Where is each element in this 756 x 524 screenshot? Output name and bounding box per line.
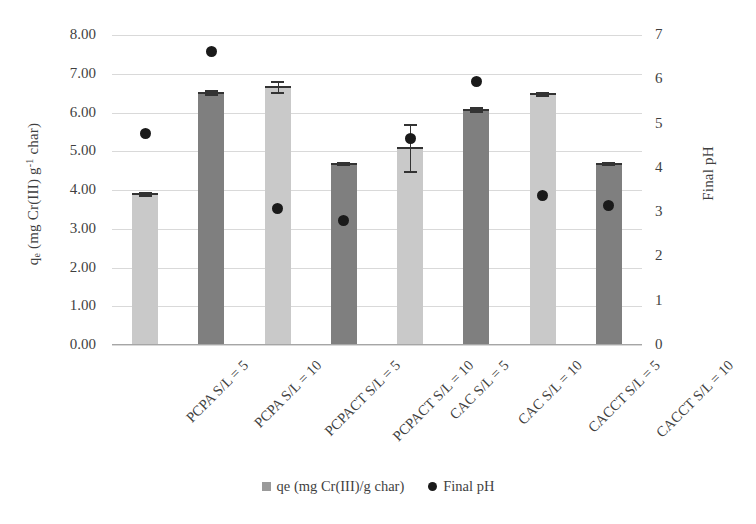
plot-area (112, 35, 642, 345)
x-axis-label-3: PCPACT S/L = 10 (389, 357, 477, 445)
gridline (112, 190, 642, 191)
gridline (112, 345, 642, 346)
y-axis-right-tick-label: 3 (655, 204, 695, 219)
y-axis-left-title-mid: (mg Cr(III) g (25, 167, 41, 253)
error-bar-cap-upper (205, 90, 218, 92)
error-bar-cap-lower (337, 164, 350, 166)
gridline (112, 229, 642, 230)
legend-item-1[interactable]: Final pH (428, 478, 494, 495)
bar-4 (397, 147, 423, 345)
y-axis-left-tick-label: 1.00 (36, 298, 96, 313)
y-axis-left-title-subscript: e (31, 253, 42, 258)
error-bar-cap-upper (470, 107, 483, 109)
error-bar-cap-upper (536, 92, 549, 94)
y-axis-left-tick-label: 3.00 (36, 221, 96, 236)
gridline (112, 268, 642, 269)
chart-legend: qe (mg Cr(III)/g char)Final pH (0, 478, 756, 495)
gridline (112, 74, 642, 75)
y-axis-right-tick-label: 6 (655, 71, 695, 86)
ph-marker-1 (206, 46, 217, 57)
legend-item-label: Final pH (443, 478, 494, 495)
error-bar-cap-lower (404, 171, 417, 173)
dot-marker-icon (428, 482, 437, 491)
chart-figure: qe (mg Cr(III) g-1 char) Final pH 0.001.… (0, 0, 756, 524)
x-axis-label-2: PCPACT S/L = 5 (321, 357, 404, 440)
x-axis-label-4: CAC S/L = 5 (447, 357, 513, 423)
bar-6 (530, 93, 556, 345)
y-axis-left-tick-label: 6.00 (36, 105, 96, 120)
error-bar-cap-lower (271, 92, 284, 94)
legend-item-0[interactable]: qe (mg Cr(III)/g char) (262, 478, 405, 495)
bar-3 (331, 163, 357, 345)
error-bar-cap-upper (271, 81, 284, 83)
bar-5 (463, 109, 489, 345)
y-axis-left-tick-label: 4.00 (36, 182, 96, 197)
y-axis-left-tick-label: 5.00 (36, 143, 96, 158)
gridline (112, 306, 642, 307)
bar-1 (198, 92, 224, 345)
ph-marker-3 (338, 215, 349, 226)
x-axis-label-6: CACCT S/L = 5 (584, 357, 663, 436)
error-bar-cap-lower (602, 164, 615, 166)
x-axis-label-7: CACCT S/L = 10 (653, 357, 737, 441)
gridline (112, 35, 642, 36)
error-bar-cap-upper (404, 124, 417, 126)
ph-marker-5 (471, 76, 482, 87)
gridline (112, 113, 642, 114)
y-axis-left-tick-label: 7.00 (36, 66, 96, 81)
bar-2 (265, 86, 291, 345)
error-bar-cap-lower (205, 94, 218, 96)
error-bar-cap-lower (470, 111, 483, 113)
x-axis-label-0: PCPA S/L = 5 (183, 357, 252, 426)
x-axis-label-1: PCPA S/L = 10 (251, 357, 325, 431)
bar-0 (132, 193, 158, 345)
error-bar-cap-lower (139, 195, 152, 197)
ph-marker-6 (537, 190, 548, 201)
y-axis-right-tick-label: 5 (655, 116, 695, 131)
ph-marker-4 (405, 133, 416, 144)
ph-marker-0 (140, 128, 151, 139)
y-axis-right-title: Final pH (700, 114, 717, 234)
y-axis-right-tick-label: 1 (655, 293, 695, 308)
bar-7 (596, 163, 622, 345)
square-marker-icon (262, 482, 271, 491)
y-axis-right-tick-label: 4 (655, 160, 695, 175)
y-axis-left-title-superscript: -1 (24, 159, 35, 168)
y-axis-left-tick-label: 0.00 (36, 337, 96, 352)
y-axis-left-tick-label: 2.00 (36, 260, 96, 275)
error-bar-cap-upper (139, 192, 152, 194)
y-axis-right-tick-label: 7 (655, 27, 695, 42)
y-axis-right-tick-label: 2 (655, 248, 695, 263)
x-axis-label-5: CAC S/L = 10 (515, 357, 586, 428)
error-bar-line (410, 124, 411, 171)
y-axis-left-tick-label: 8.00 (36, 27, 96, 42)
error-bar-cap-lower (536, 95, 549, 97)
x-axis-line (112, 344, 642, 345)
y-axis-right-tick-label: 0 (655, 337, 695, 352)
legend-item-label: qe (mg Cr(III)/g char) (277, 478, 405, 495)
gridline (112, 151, 642, 152)
